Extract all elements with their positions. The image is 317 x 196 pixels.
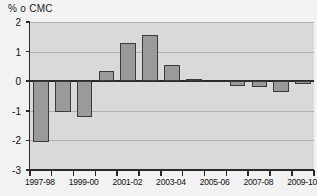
y-axis-label: -2 [0,135,21,146]
bar [77,81,93,117]
x-axis-tick [73,170,75,176]
y-axis-title: % o CMC [8,3,53,14]
x-axis-tick [226,170,228,176]
y-axis-label: -3 [0,165,21,176]
x-axis-tick [160,170,162,176]
bar [142,35,158,81]
y-axis-label: 1 [0,46,21,57]
x-axis-label: 2007-08 [243,177,273,187]
bar [55,81,71,112]
bar [33,81,49,142]
bar [164,65,180,81]
x-axis-tick [269,170,271,176]
y-axis-label: -1 [0,105,21,116]
x-axis-label: 2009-10 [287,177,317,187]
x-axis-tick [247,170,249,176]
x-axis-tick [51,170,53,176]
x-axis-ticks [29,170,314,176]
x-axis-tick [116,170,118,176]
y-axis-label: 2 [0,17,21,28]
x-axis-label: 2003-04 [156,177,186,187]
bar [230,81,246,85]
bar [120,43,136,81]
plot-area [29,22,314,170]
x-axis-label: 2001-02 [112,177,142,187]
y-axis-label: 0 [0,76,21,87]
x-axis-tick [29,170,31,176]
x-axis-label: 2005-06 [200,177,230,187]
x-axis-tick [182,170,184,176]
x-axis-labels: 1997-981999-002001-022003-042005-062007-… [0,177,317,193]
bar [295,81,311,84]
bar [186,79,202,81]
x-axis-tick [313,170,315,176]
bar-series [30,22,314,170]
x-axis-label: 1997-98 [25,177,55,187]
bar [99,71,115,81]
x-axis-tick [291,170,293,176]
x-axis-label: 1999-00 [69,177,99,187]
bar [252,81,268,87]
x-axis-tick [95,170,97,176]
bar [273,81,289,91]
x-axis-tick [204,170,206,176]
x-axis-tick [138,170,140,176]
bar-chart: % o CMC 210-1-2-3 1997-981999-002001-022… [0,0,317,196]
